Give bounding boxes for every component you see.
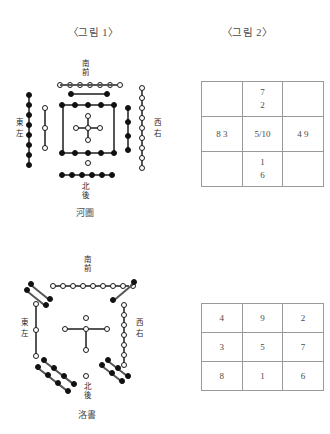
hetu-cell-se — [283, 152, 324, 187]
luoshu-dot-bottomleft-black — [65, 388, 71, 394]
hetu-dot-bottom-black — [109, 172, 115, 178]
luoshu-dot-topright-black — [110, 297, 116, 303]
luoshu-label-west: 西 — [134, 318, 143, 327]
luoshu-dot-bottomright-black — [119, 378, 125, 384]
hetu-label-front: 前 — [78, 69, 92, 78]
hetu-dot-left-black — [26, 152, 32, 158]
hetu-dot-left-black — [26, 112, 32, 118]
hetu-dot-right-black — [125, 105, 131, 111]
hetu-cell-ne — [283, 82, 324, 117]
hetu-dot-center-square — [72, 150, 78, 156]
luoshu-label-east: 東 — [19, 318, 28, 327]
figure-1-label: 〈그림 1〉 — [68, 24, 118, 39]
luoshu-cell-s: 1 — [242, 362, 283, 391]
hetu-dot-bottom-black — [59, 172, 65, 178]
hetu-dot-left-white — [42, 105, 48, 111]
hetu-dot-center-square — [85, 102, 91, 108]
luoshu-magic-square-table: 4 9 2 3 5 7 8 1 6 — [201, 303, 324, 391]
hetu-dot-center-square — [59, 102, 65, 108]
hetu-dot-right-white — [139, 145, 145, 151]
luoshu-dot-bottomleft-black — [61, 373, 67, 379]
table-row: 7 2 — [202, 82, 324, 117]
luoshu-dot-top-white — [70, 283, 76, 289]
luoshu-label-back: 後 — [80, 392, 94, 401]
hetu-dot-center-cross — [85, 113, 91, 119]
hetu-cell-s-upper: 1 — [243, 156, 283, 169]
hetu-dot-left-black — [26, 122, 32, 128]
table-row: 8 3 5/10 4 9 — [202, 117, 324, 152]
luoshu-cell-se: 6 — [283, 362, 324, 391]
luoshu-dot-right-white — [121, 322, 127, 328]
hetu-dot-right-white — [139, 95, 145, 101]
hetu-cell-center: 5/10 — [242, 117, 283, 152]
luoshu-cell-e: 7 — [283, 333, 324, 362]
hetu-label-back: 後 — [78, 192, 92, 201]
hetu-connector-top-white — [60, 84, 117, 86]
luoshu-dot-bottomleft-black — [71, 381, 77, 387]
luoshu-cell-center: 5 — [242, 333, 283, 362]
luoshu-dot-center-white — [83, 326, 89, 332]
hetu-dot-center-square — [98, 150, 104, 156]
hetu-dot-center-square — [85, 150, 91, 156]
hetu-cell-e: 4 9 — [283, 117, 324, 152]
luoshu-dot-bottomright-black — [105, 357, 111, 363]
luoshu-dot-bottomleft-black — [55, 380, 61, 386]
hetu-dot-bottom-black — [79, 172, 85, 178]
hetu-cell-nw — [202, 82, 243, 117]
table-row: 3 5 7 — [202, 333, 324, 362]
hetu-cell-s: 1 6 — [242, 152, 283, 187]
luoshu-dot-top-white — [50, 283, 56, 289]
hetu-square-edge-right — [113, 104, 115, 153]
hetu-dot-center-square — [111, 102, 117, 108]
luoshu-dot-topleft-black — [47, 296, 53, 302]
hetu-dot-right-white — [139, 85, 145, 91]
hetu-dot-center-square — [98, 102, 104, 108]
hetu-dot-top-black — [104, 91, 110, 97]
luoshu-dot-left-white — [33, 327, 39, 333]
hetu-dot-left-black — [26, 162, 32, 168]
luoshu-dot-right-white — [121, 352, 127, 358]
hetu-cell-n: 7 2 — [242, 82, 283, 117]
hetu-dot-top-black — [68, 91, 74, 97]
hetu-dot-right-white — [139, 135, 145, 141]
hetu-cell-s-lower: 6 — [243, 169, 283, 182]
hetu-label-east: 東 — [14, 118, 23, 127]
hetu-dot-left-black — [26, 132, 32, 138]
luoshu-cell-nw: 4 — [202, 304, 243, 333]
hetu-dot-center-cross — [85, 125, 91, 131]
hetu-dot-bottom-black — [99, 172, 105, 178]
hetu-dot-right-black — [125, 133, 131, 139]
hetu-square-edge-left — [62, 104, 64, 153]
luoshu-dot-top-white — [80, 283, 86, 289]
luoshu-dot-bottomright-black — [115, 365, 121, 371]
luoshu-dot-bottomright-black — [109, 370, 115, 376]
hetu-dot-bottom-black — [69, 172, 75, 178]
luoshu-dot-bottomleft-black — [51, 365, 57, 371]
hetu-dot-left-black — [26, 142, 32, 148]
hetu-cell-n-upper: 7 — [243, 86, 283, 99]
luoshu-label-front: 前 — [80, 265, 94, 274]
hetu-diagram: 南 前 — [0, 60, 185, 220]
hetu-dot-right-white — [139, 115, 145, 121]
hetu-label-west: 西 — [152, 118, 161, 127]
luoshu-cell-w: 3 — [202, 333, 243, 362]
luoshu-caption: 洛書 — [64, 408, 110, 421]
luoshu-dot-topleft-black — [43, 302, 49, 308]
hetu-dot-center-cross — [73, 125, 79, 131]
hetu-dot-bottom-white — [85, 160, 91, 166]
luoshu-dot-topleft-black — [28, 281, 34, 287]
hetu-dot-center-cross — [97, 125, 103, 131]
hetu-dot-center-square — [59, 150, 65, 156]
hetu-dot-left-white — [42, 125, 48, 131]
luoshu-dot-bottomright-black — [125, 373, 131, 379]
luoshu-dot-right-white — [121, 312, 127, 318]
luoshu-dot-right-white — [121, 362, 127, 368]
luoshu-cell-ne: 2 — [283, 304, 324, 333]
hetu-dot-left-white — [42, 145, 48, 151]
luoshu-dot-bottomleft-black — [35, 364, 41, 370]
luoshu-dot-center-white — [62, 326, 68, 332]
luoshu-dot-top-white — [110, 283, 116, 289]
table-row: 1 6 — [202, 152, 324, 187]
luoshu-dot-left-white — [33, 353, 39, 359]
luoshu-dot-top-white — [60, 283, 66, 289]
